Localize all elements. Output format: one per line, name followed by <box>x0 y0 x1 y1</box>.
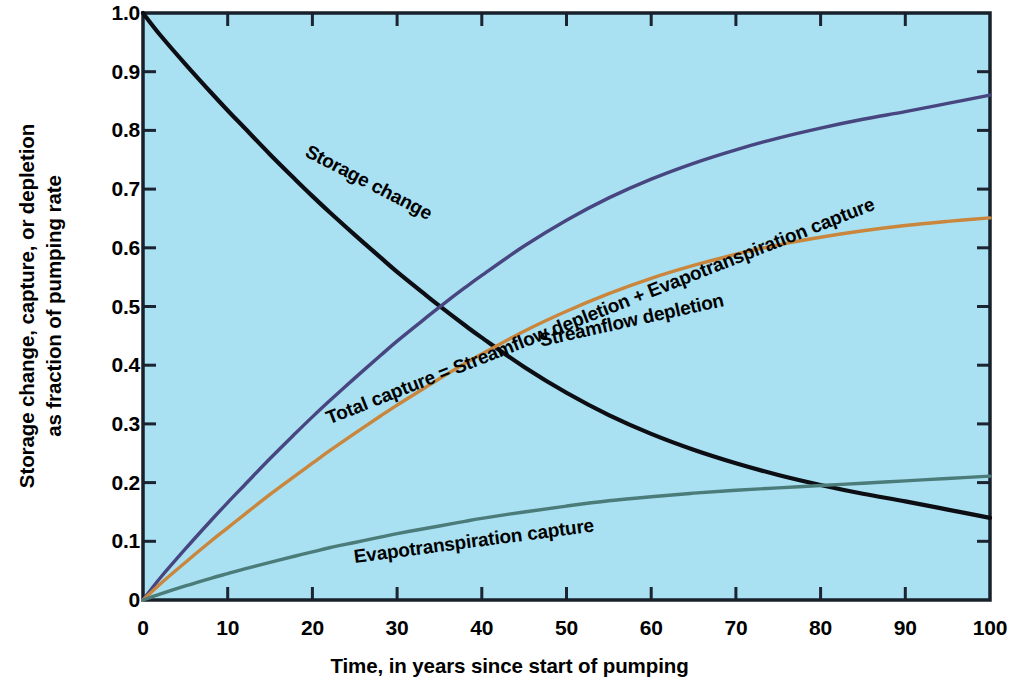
x-tick-label: 90 <box>894 616 917 640</box>
x-tick-label: 70 <box>724 616 747 640</box>
x-tick-label: 30 <box>386 616 409 640</box>
x-tick-label: 50 <box>555 616 578 640</box>
plot-area: Storage changeTotal capture = Streamflow… <box>0 0 1019 693</box>
chart-figure: Storage change, capture, or depletion as… <box>0 0 1019 693</box>
x-tick-label: 100 <box>973 616 1007 640</box>
x-axis-tick-labels: 0102030405060708090100 <box>0 608 1019 642</box>
x-tick-label: 20 <box>301 616 324 640</box>
x-tick-label: 10 <box>216 616 239 640</box>
x-tick-label: 0 <box>137 616 148 640</box>
plot-background <box>143 13 990 600</box>
x-tick-label: 80 <box>809 616 832 640</box>
x-tick-label: 40 <box>470 616 493 640</box>
x-tick-label: 60 <box>640 616 663 640</box>
x-axis-label: Time, in years since start of pumping <box>0 654 1019 678</box>
